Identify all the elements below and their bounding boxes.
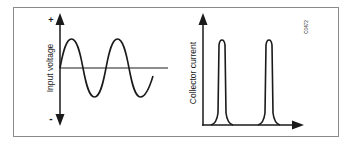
positive-sign: + [48, 15, 53, 25]
input-voltage-graph: + - Input voltage [45, 13, 168, 126]
collector-current-graph: Collector current [188, 13, 304, 130]
axis-arrow-down-icon [56, 114, 65, 126]
reference-code: C0472 [304, 20, 309, 34]
axis-arrow-up-icon [199, 13, 208, 25]
axis-arrow-right-icon [292, 121, 304, 130]
current-pulse-1 [211, 40, 233, 125]
axis-arrow-up-icon [56, 13, 65, 25]
diagram-figure: + - Input voltage Collector current C047… [0, 0, 350, 143]
negative-sign: - [49, 113, 52, 124]
current-pulse-2 [258, 40, 280, 125]
collector-current-label: Collector current [188, 41, 198, 104]
input-voltage-label: Input voltage [45, 43, 55, 92]
